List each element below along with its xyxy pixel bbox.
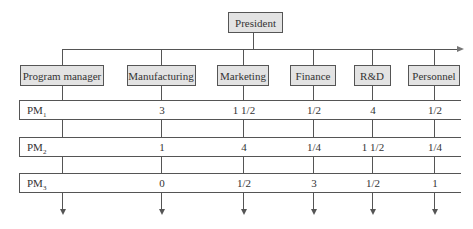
allocation-value: 1/2 [428,104,442,116]
allocation-value: 1/2 [366,177,380,189]
department-label: Program manager [23,70,102,82]
program-label: PM2 [27,141,46,156]
department-box: Manufacturing [127,65,196,86]
program-row: PM301/231/21 [19,173,461,193]
down-arrow-icon [311,209,317,215]
department-box: Marketing [217,65,269,86]
down-arrow-icon [241,209,247,215]
allocation-value: 1 [432,177,438,189]
allocation-value: 3 [159,104,165,116]
program-label: PM3 [27,177,46,192]
allocation-value: 1 [159,141,165,153]
department-label: R&D [360,70,384,82]
down-arrow-icon [432,209,438,215]
president-connector [253,33,254,49]
allocation-value: 1/4 [307,141,321,153]
department-box: Program manager [20,65,104,86]
department-box: R&D [354,65,391,86]
program-label: PM1 [27,104,46,119]
department-bus [62,49,458,50]
president-box: President [228,12,283,33]
down-arrow-icon [370,209,376,215]
allocation-value: 1 1/2 [362,141,384,153]
department-label: Manufacturing [128,70,193,82]
department-label: Personnel [412,70,455,82]
allocation-value: 3 [311,177,317,189]
president-label: President [235,17,276,29]
allocation-value: 1/4 [428,141,442,153]
bus-arrow-icon [457,46,464,52]
department-label: Marketing [220,70,266,82]
department-box: Personnel [408,65,460,86]
program-row: PM2141/41 1/21/4 [19,137,461,157]
program-row: PM131 1/21/241/2 [19,100,461,120]
department-label: Finance [296,70,331,82]
department-box: Finance [290,65,336,86]
allocation-value: 1/2 [237,177,251,189]
down-arrow-icon [60,209,66,215]
allocation-value: 4 [241,141,247,153]
down-arrow-icon [159,209,165,215]
allocation-value: 1/2 [307,104,321,116]
allocation-value: 0 [159,177,165,189]
allocation-value: 4 [370,104,376,116]
allocation-value: 1 1/2 [233,104,255,116]
